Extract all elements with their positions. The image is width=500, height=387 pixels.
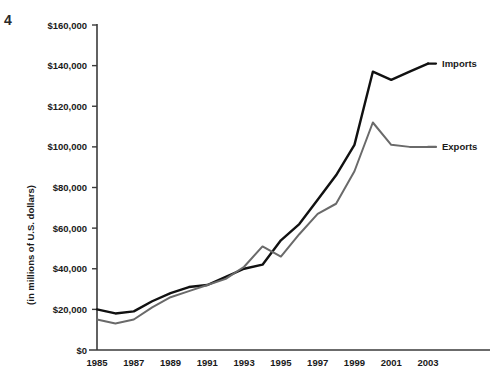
x-axis-tick-labels: 1985198719891991199319951997199920012003 [86, 357, 438, 368]
page-corner-mark: 4 [4, 12, 12, 28]
x-tick-label: 2003 [417, 357, 438, 368]
legend-label-imports: Imports [442, 58, 477, 69]
y-tick-label: $0 [76, 345, 87, 356]
y-tick-label: $120,000 [47, 101, 87, 112]
x-tick-label: 1999 [344, 357, 365, 368]
chart-legend: ImportsExports [428, 58, 477, 152]
legend-label-exports: Exports [442, 141, 477, 152]
series-line-imports [97, 64, 428, 314]
y-tick-label: $20,000 [53, 304, 87, 315]
y-tick-label: $40,000 [53, 263, 87, 274]
chart-figure: 4 $0$20,000$40,000$60,000$80,000$100,000… [0, 0, 500, 387]
x-tick-label: 1993 [234, 357, 255, 368]
y-tick-label: $60,000 [53, 223, 87, 234]
x-tick-label: 1985 [86, 357, 108, 368]
series-line-exports [97, 123, 428, 324]
x-tick-label: 1989 [160, 357, 181, 368]
y-tick-label: $160,000 [47, 20, 87, 31]
x-axis: 1985198719891991199319951997199920012003 [86, 350, 490, 368]
y-axis: $0$20,000$40,000$60,000$80,000$100,000$1… [47, 20, 97, 356]
x-tick-label: 2001 [381, 357, 403, 368]
line-chart: $0$20,000$40,000$60,000$80,000$100,000$1… [0, 0, 500, 387]
x-tick-label: 1991 [197, 357, 219, 368]
y-axis-title: (in millions of U.S. dollars) [25, 185, 36, 305]
x-tick-label: 1997 [307, 357, 328, 368]
x-tick-label: 1995 [270, 357, 292, 368]
y-tick-label: $100,000 [47, 141, 87, 152]
y-tick-label: $140,000 [47, 60, 87, 71]
y-tick-label: $80,000 [53, 182, 87, 193]
y-axis-tick-labels: $0$20,000$40,000$60,000$80,000$100,000$1… [47, 20, 87, 356]
x-tick-label: 1987 [123, 357, 144, 368]
data-series-group [97, 64, 428, 324]
